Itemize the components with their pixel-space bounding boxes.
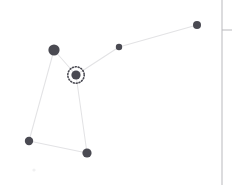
node-mid-right[interactable] <box>116 44 122 50</box>
edge-midright-farright[interactable] <box>119 25 197 47</box>
nodes-layer <box>25 21 201 158</box>
graph-svg-surface[interactable] <box>0 0 232 185</box>
artifacts-layer <box>32 168 35 171</box>
node-bottom-left[interactable] <box>25 137 33 145</box>
edges-layer <box>29 25 197 153</box>
edge-center-bottommid[interactable] <box>76 75 87 153</box>
node-bottom-mid[interactable] <box>82 148 91 157</box>
faint-speck <box>32 168 35 171</box>
panel-divider-group <box>222 0 232 185</box>
node-far-right[interactable] <box>193 21 201 29</box>
node-top-left[interactable] <box>48 44 59 55</box>
graph-canvas-root: Graph node canvas <box>0 0 232 185</box>
edge-topleft-bottomleft[interactable] <box>29 50 54 141</box>
edge-bottomleft-bottommid[interactable] <box>29 141 87 153</box>
node-center-selected[interactable] <box>71 70 80 79</box>
